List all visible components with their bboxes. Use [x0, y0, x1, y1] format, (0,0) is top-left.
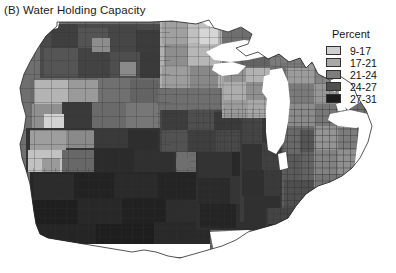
legend-item-4: 27-31 — [326, 93, 396, 104]
page-title: (B) Water Holding Capacity — [4, 4, 146, 16]
legend-swatch-2 — [326, 70, 341, 79]
legend-item-1: 17-21 — [326, 57, 396, 68]
legend-item-3: 24-27 — [326, 81, 396, 92]
legend-swatch-3 — [326, 82, 341, 91]
legend-swatch-4 — [326, 94, 341, 103]
legend-swatch-1 — [326, 58, 341, 67]
county-texture-west — [20, 18, 170, 178]
legend-item-0: 9-17 — [326, 45, 396, 56]
legend-item-2: 21-24 — [326, 69, 396, 80]
figure-panel-b: (B) Water Holding Capacity — [0, 0, 396, 273]
legend-label-3: 24-27 — [350, 81, 377, 93]
legend-label-2: 21-24 — [350, 69, 377, 81]
legend-label-4: 27-31 — [350, 93, 377, 105]
legend-label-0: 9-17 — [350, 45, 371, 57]
legend: Percent 9-17 17-21 21-24 24-27 27-31 — [326, 28, 396, 105]
legend-swatch-0 — [326, 46, 341, 55]
legend-title: Percent — [332, 28, 396, 40]
legend-label-1: 17-21 — [350, 57, 377, 69]
